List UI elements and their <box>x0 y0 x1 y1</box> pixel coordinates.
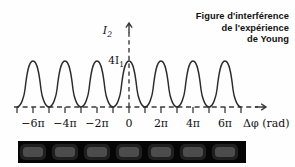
peak-intensity-label: 4I1 <box>108 54 124 69</box>
x-axis-ticks <box>17 107 241 113</box>
x-tick-label: −4π <box>53 117 76 130</box>
x-tick-label: 4π <box>186 117 200 130</box>
fringe-glow <box>20 144 46 160</box>
x-axis-label: Δφ (rad) <box>243 117 290 130</box>
x-tick-label: −2π <box>85 117 108 130</box>
x-tick-label: 2π <box>154 117 168 130</box>
interference-plot: I2 4I1 −6π −4π −2π 0 2π 4π 6π Δφ (rad) <box>0 0 295 167</box>
x-tick-label: −6π <box>21 117 44 130</box>
fringe-glow <box>52 144 78 160</box>
y-axis-label: I2 <box>102 24 112 39</box>
fringe-glow <box>116 144 142 160</box>
x-tick-label: 6π <box>218 117 232 130</box>
y-axis <box>126 23 132 107</box>
fringe-glow <box>84 144 110 160</box>
fringe-strip <box>18 141 246 163</box>
fringe-glow <box>180 144 206 160</box>
fringe-glow <box>212 144 238 160</box>
fringe-glow <box>148 144 174 160</box>
young-interference-figure: Figure d'interférence de l'expérience de… <box>0 0 295 167</box>
x-axis-arrow-icon <box>255 104 266 110</box>
y-axis-arrow-icon <box>126 23 132 33</box>
x-tick-label: 0 <box>126 117 133 130</box>
